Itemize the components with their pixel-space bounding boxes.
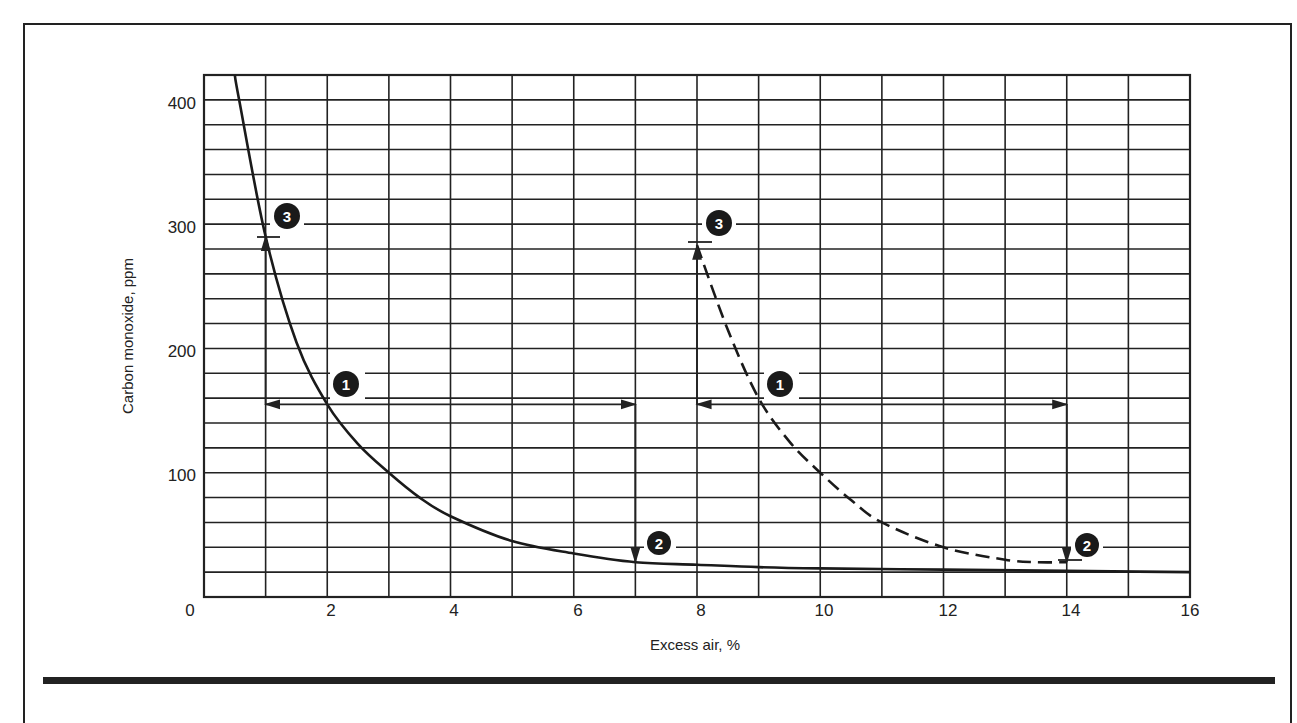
svg-text:3: 3 — [283, 208, 291, 225]
y-tick-100: 100 — [168, 466, 196, 485]
x-tick-6: 6 — [573, 601, 582, 620]
svg-text:1: 1 — [776, 376, 784, 393]
svg-text:2: 2 — [1083, 537, 1091, 554]
svg-text:2: 2 — [655, 535, 663, 552]
y-tick-200: 200 — [168, 342, 196, 361]
y-axis-title: Carbon monoxide, ppm — [119, 258, 136, 414]
y-tick-300: 300 — [168, 218, 196, 237]
x-tick-16: 16 — [1181, 601, 1200, 620]
x-tick-12: 12 — [939, 601, 958, 620]
x-tick-14: 14 — [1062, 601, 1081, 620]
svg-text:1: 1 — [342, 376, 350, 393]
y-tick-400: 400 — [168, 94, 196, 113]
svg-text:3: 3 — [715, 215, 723, 232]
marker-2-left: 2 — [644, 530, 676, 558]
marker-1-right: 1 — [764, 370, 799, 400]
marker-3-left: 3 — [270, 200, 304, 230]
marker-2-right: 2 — [1071, 530, 1103, 558]
marker-1-left: 1 — [330, 370, 365, 400]
x-tick-10: 10 — [815, 601, 834, 620]
x-tick-4: 4 — [449, 601, 458, 620]
x-tick-8: 8 — [696, 601, 705, 620]
x-tick-0: 0 — [185, 601, 194, 620]
x-tick-2: 2 — [326, 601, 335, 620]
marker-3-right: 3 — [702, 208, 736, 238]
x-axis-title: Excess air, % — [650, 636, 740, 653]
guide-arrows — [266, 237, 1067, 563]
